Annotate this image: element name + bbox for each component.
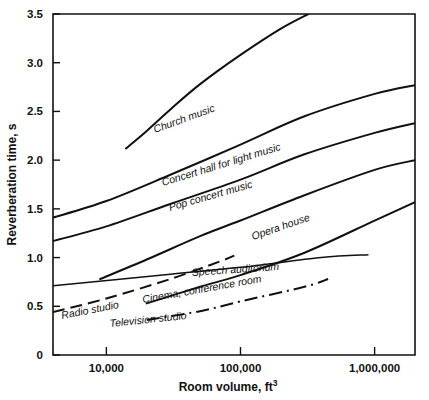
x-axis-tick-label: 100,000 bbox=[220, 362, 262, 374]
series-curve-concert-hall-for-light-music bbox=[53, 85, 415, 218]
y-axis-tick-label: 0.5 bbox=[27, 300, 44, 312]
chart-canvas: 00.51.01.52.02.53.03.510,000100,0001,000… bbox=[0, 0, 429, 400]
series-label-concert-hall-for-light-music: Concert hall for light music bbox=[160, 140, 283, 188]
y-axis-tick-label: 2.0 bbox=[27, 154, 43, 166]
series-label-speech-auditorium: Speech auditorium bbox=[191, 260, 279, 278]
y-axis-tick-label: 2.5 bbox=[27, 105, 44, 117]
reverberation-time-chart: 00.51.01.52.02.53.03.510,000100,0001,000… bbox=[0, 0, 429, 400]
x-axis-tick-label: 10,000 bbox=[89, 362, 124, 374]
y-axis-tick-label: 3.5 bbox=[27, 8, 44, 20]
x-axis-tick-label: 1,000,000 bbox=[349, 362, 400, 374]
y-axis-tick-label: 0 bbox=[37, 349, 43, 361]
y-axis-tick-label: 3.0 bbox=[27, 57, 43, 69]
series-label-opera-house: Opera house bbox=[250, 211, 311, 242]
y-axis-tick-label: 1.5 bbox=[27, 203, 44, 215]
y-axis-tick-label: 1.0 bbox=[27, 252, 43, 264]
x-axis-title: Room volume, ft3 bbox=[179, 378, 278, 394]
y-axis-title: Reverberation time, s bbox=[5, 123, 19, 245]
series-label-television-studio: Television studio bbox=[109, 309, 187, 329]
